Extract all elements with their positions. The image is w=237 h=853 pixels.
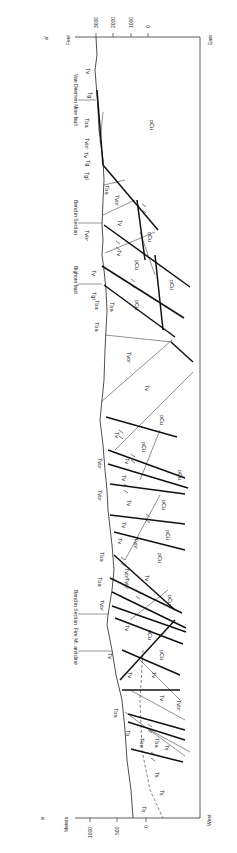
unit-label: pCu [159,415,165,425]
unit-label: pCu [134,300,140,310]
contact-line [140,430,160,480]
feet-tick-label: 1000 [128,17,134,28]
contact-line [105,335,172,342]
geologic-cross-section: 3000 2000 1000 0 Feet a' East 1000 500 0… [0,0,237,853]
unit-label: Tba [94,322,100,332]
unit-label: pCu [147,630,153,640]
unit-label: Tba [99,552,105,562]
unit-label: pCu [169,280,175,290]
unit-label: pCu [134,260,140,270]
unit-label: Tba [104,185,110,195]
unit-label: Tg [85,160,91,166]
feet-axis: 3000 2000 1000 0 Feet a' East [43,17,213,45]
unit-label: Tvbr [84,230,90,241]
unit-label: Tvbr [97,490,103,501]
meters-unit-label: Meters [63,816,69,832]
unit-label: Tba [109,302,115,312]
unit-label: Tv [124,458,130,464]
fire-mt-anticline-label: Fire Mt. anticline [73,628,79,665]
unit-label: pCu [165,530,171,540]
unit-label: Tv [83,152,89,158]
faults [97,90,193,762]
fault-line [114,555,175,610]
unit-label: pCu [159,650,165,660]
section-end-label: a' [43,36,49,40]
unit-label: Tb [125,730,131,736]
fault-line [131,749,183,762]
fault-line [114,532,185,550]
unit-label: pCu [161,500,167,510]
unit-label: Tvbr [176,700,182,711]
unit-label: Tvbr [133,538,139,549]
unit-label: Tv [114,432,120,438]
east-label: East [207,34,213,45]
bighorn-fault-label: Bighorn fault [73,266,79,295]
feet-tick-label: 3000 [93,17,99,28]
unit-label: Tv [144,575,150,581]
unit-labels: Tv Tg Tba Tvbr Tv Tg Tgl pCu Tba Tvbr Tv… [83,68,183,812]
unit-label: Tv [107,653,113,659]
fault-line [128,714,185,730]
half-arrow-icon [151,752,155,761]
section-start-label: a [39,817,45,820]
unit-label: pCu [141,442,147,452]
unit-label: Ts [164,745,170,751]
ground-surface [95,37,133,818]
unit-label: Ts [159,790,165,796]
unit-label: Ts [154,772,160,778]
unit-label: Tba [97,577,103,587]
van-deemen-mine-fault-label: Van Deemen Mine fault [73,74,79,126]
fault-line [110,484,185,494]
unit-label: Tv [121,475,127,481]
unit-label: Tg [87,92,93,98]
unit-label: Tv [91,270,97,276]
unit-label: Tv [126,500,132,506]
unit-label: Tv [124,625,130,631]
unit-label: Tb [141,806,147,812]
unit-label: Tvbr [99,600,105,611]
unit-label: Tv [121,522,127,528]
contact-line [130,590,168,620]
contacts [100,112,193,756]
unit-label: pCu [167,595,173,605]
meters-tick-label: 1000 [87,827,93,838]
feature-callouts: Van Deemen Mine fault Bend in Section Bi… [73,74,112,665]
fault-line [108,464,188,488]
meters-tick-label: 0 [143,825,149,828]
feet-unit-label: Feet [65,34,71,45]
fault-line [103,165,158,230]
unit-label: Tv [151,672,157,678]
unit-label: pCu [177,470,183,480]
unit-label: pCu [157,553,163,563]
unit-label: Tgl [84,172,90,180]
unit-label: Tv [116,250,122,256]
west-label: West [206,814,212,826]
unit-label: Tba [84,118,90,128]
unit-label: Tv [85,68,91,74]
meters-tick-label: 500 [114,826,120,835]
unit-label: Tvbr [114,195,120,206]
unit-label: Tvbr [124,578,130,589]
half-arrow-icon [146,514,150,523]
unit-label: Tba [113,708,119,718]
unit-label: Tv [117,220,123,226]
bend-in-section-west-label: Bend in Section [73,590,79,625]
unit-label: Tba [139,738,145,748]
unit-label: Tvbr [126,352,132,363]
unit-label: Tv [127,672,133,678]
unit-label: Tv [159,695,165,701]
bend-in-section-east-label: Bend in Section [73,200,79,235]
feet-tick-label: 0 [145,25,151,28]
unit-label: Tba [154,738,160,748]
half-arrow-icon [116,241,120,250]
feet-tick-label: 2000 [110,17,116,28]
unit-label: Tv [117,538,123,544]
unit-label: pCu [147,232,153,242]
contact-line [101,340,172,402]
unit-label: Tv [144,385,150,391]
unit-label: Tgl [91,292,97,300]
contact-line [115,372,193,450]
unit-label: Tvbr [84,138,90,149]
fault-line [108,450,185,478]
unit-label: Tvbr [97,458,103,469]
